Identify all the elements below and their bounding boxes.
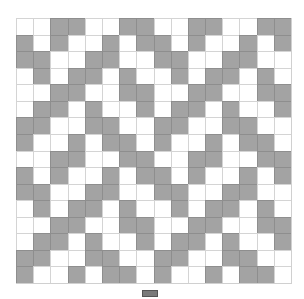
grid-cell: [33, 51, 50, 68]
grid-cell: [119, 84, 136, 101]
grid-cell: [257, 250, 274, 267]
grid-cell: [171, 250, 188, 267]
grid-cell: [119, 68, 136, 85]
grid-cell: [16, 250, 33, 267]
grid-cell: [119, 266, 136, 283]
grid-cell: [154, 84, 171, 101]
grid-cell: [102, 167, 119, 184]
grid-cell: [102, 101, 119, 118]
grid-cell: [239, 167, 256, 184]
grid-cell: [102, 250, 119, 267]
grid-cell: [136, 233, 153, 250]
grid-cell: [33, 266, 50, 283]
grid-cell: [257, 233, 274, 250]
grid-cell: [188, 233, 205, 250]
grid-cell: [171, 233, 188, 250]
grid-cell: [188, 250, 205, 267]
grid-cell: [274, 184, 291, 201]
grid-cell: [136, 51, 153, 68]
grid-cell: [85, 167, 102, 184]
grid-cell: [188, 18, 205, 35]
grid-cell: [222, 18, 239, 35]
grid-cell: [119, 167, 136, 184]
grid-cell: [188, 35, 205, 52]
grid-cell: [68, 217, 85, 234]
grid-cell: [85, 217, 102, 234]
grid-cell: [205, 51, 222, 68]
grid-cell: [50, 18, 67, 35]
grid-cell: [274, 84, 291, 101]
grid-cell: [257, 35, 274, 52]
grid-cell: [171, 167, 188, 184]
grid-cell: [205, 266, 222, 283]
grid-cell: [136, 250, 153, 267]
legend: [0, 290, 304, 297]
grid-cell: [239, 68, 256, 85]
grid-cell: [274, 134, 291, 151]
grid-cell: [68, 101, 85, 118]
grid-cell: [188, 200, 205, 217]
grid-cell: [119, 101, 136, 118]
grid-cell: [136, 134, 153, 151]
grid-cell: [205, 68, 222, 85]
grid-cell: [188, 68, 205, 85]
grid-cell: [102, 184, 119, 201]
grid-cell: [68, 117, 85, 134]
grid-cell: [33, 184, 50, 201]
grid-cell: [188, 266, 205, 283]
grid-cell: [188, 101, 205, 118]
grid-cell: [171, 151, 188, 168]
grid-cell: [274, 167, 291, 184]
grid-cell: [33, 151, 50, 168]
grid-cell: [239, 117, 256, 134]
grid-cell: [154, 117, 171, 134]
grid-cell: [33, 134, 50, 151]
grid-cell: [136, 84, 153, 101]
grid-cell: [16, 117, 33, 134]
grid-cell: [205, 217, 222, 234]
grid-cell: [68, 51, 85, 68]
grid-cell: [16, 233, 33, 250]
grid-cell: [257, 117, 274, 134]
grid-cell: [188, 117, 205, 134]
grid-cell: [119, 184, 136, 201]
grid-cell: [68, 184, 85, 201]
grid-cell: [102, 18, 119, 35]
grid-cell: [33, 217, 50, 234]
grid-cell: [257, 266, 274, 283]
grid-cell: [102, 51, 119, 68]
grid-cell: [222, 184, 239, 201]
grid-cell: [257, 51, 274, 68]
grid-cell: [33, 233, 50, 250]
grid-cell: [85, 35, 102, 52]
grid-cell: [136, 184, 153, 201]
grid-cell: [68, 233, 85, 250]
grid-cell: [274, 250, 291, 267]
grid-cell: [171, 84, 188, 101]
grid-cell: [257, 101, 274, 118]
grid-cell: [50, 134, 67, 151]
grid-cell: [119, 200, 136, 217]
grid-cell: [205, 250, 222, 267]
grid-cell: [50, 51, 67, 68]
grid-cell: [85, 134, 102, 151]
grid-cell: [68, 200, 85, 217]
grid-cell: [50, 266, 67, 283]
grid-cell: [154, 151, 171, 168]
grid-cell: [239, 51, 256, 68]
grid-cell: [205, 151, 222, 168]
grid-cell: [33, 117, 50, 134]
grid-cell: [50, 35, 67, 52]
grid-cell: [257, 167, 274, 184]
grid-cell: [205, 84, 222, 101]
grid-cell: [257, 18, 274, 35]
grid-cell: [50, 151, 67, 168]
grid-cell: [188, 151, 205, 168]
grid-cell: [188, 84, 205, 101]
grid-cell: [274, 18, 291, 35]
grid-cell: [154, 184, 171, 201]
grid-cell: [222, 151, 239, 168]
grid-cell: [33, 68, 50, 85]
grid-cell: [33, 18, 50, 35]
grid-cell: [33, 200, 50, 217]
